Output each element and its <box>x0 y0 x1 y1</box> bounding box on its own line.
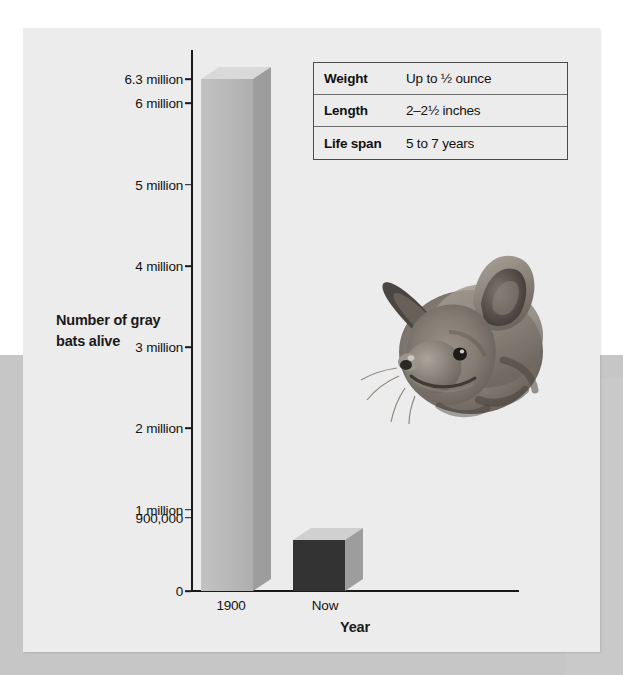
fact-key-weight: Weight <box>314 71 406 86</box>
table-row: Weight Up to ½ ounce <box>314 63 567 95</box>
y-axis-line <box>191 50 193 591</box>
y-tick-mark-2 <box>185 184 191 186</box>
bat-head-icon <box>353 240 553 425</box>
bar-now <box>293 540 345 591</box>
fact-value-weight: Up to ½ ounce <box>406 71 567 86</box>
y-tick-mark-8 <box>185 590 191 592</box>
table-row: Life span 5 to 7 years <box>314 127 567 159</box>
y-tick-label-8: 0 <box>176 584 183 599</box>
table-row: Length 2–2½ inches <box>314 95 567 127</box>
bar-1900-front-face <box>201 79 253 591</box>
fact-table: Weight Up to ½ ounce Length 2–2½ inches … <box>313 62 568 160</box>
fact-key-life-span: Life span <box>314 136 406 151</box>
y-tick-mark-6 <box>185 509 191 511</box>
bar-1900-top-face <box>201 67 271 79</box>
y-tick-mark-0 <box>185 78 191 80</box>
fact-value-life-span: 5 to 7 years <box>406 136 567 151</box>
bar-1900-side-face <box>253 67 271 591</box>
y-tick-label-0: 6.3 million <box>124 72 183 87</box>
y-tick-mark-1 <box>185 103 191 105</box>
y-tick-mark-4 <box>185 346 191 348</box>
y-tick-label-1: 6 million <box>135 96 183 111</box>
y-tick-label-7: 900,000 <box>136 510 183 525</box>
y-tick-label-3: 4 million <box>135 258 183 273</box>
bar-1900 <box>201 79 253 591</box>
y-tick-label-5: 2 million <box>135 421 183 436</box>
y-tick-mark-3 <box>185 265 191 267</box>
x-axis-title: Year <box>191 619 519 635</box>
bar-now-top-face <box>293 528 363 540</box>
y-tick-label-4: 3 million <box>135 340 183 355</box>
y-tick-mark-5 <box>185 428 191 430</box>
x-tick-label-now: Now <box>285 598 365 613</box>
y-tick-label-2: 5 million <box>135 177 183 192</box>
fact-key-length: Length <box>314 103 406 118</box>
y-tick-mark-7 <box>185 517 191 519</box>
gray-bat-illustration <box>353 240 553 425</box>
x-tick-label-1900: 1900 <box>191 598 271 613</box>
figure-panel: Number of gray bats alive 6.3 million6 m… <box>23 28 600 652</box>
fact-value-length: 2–2½ inches <box>406 103 567 118</box>
bar-now-side-face <box>345 528 363 591</box>
bar-now-front-face <box>293 540 345 591</box>
